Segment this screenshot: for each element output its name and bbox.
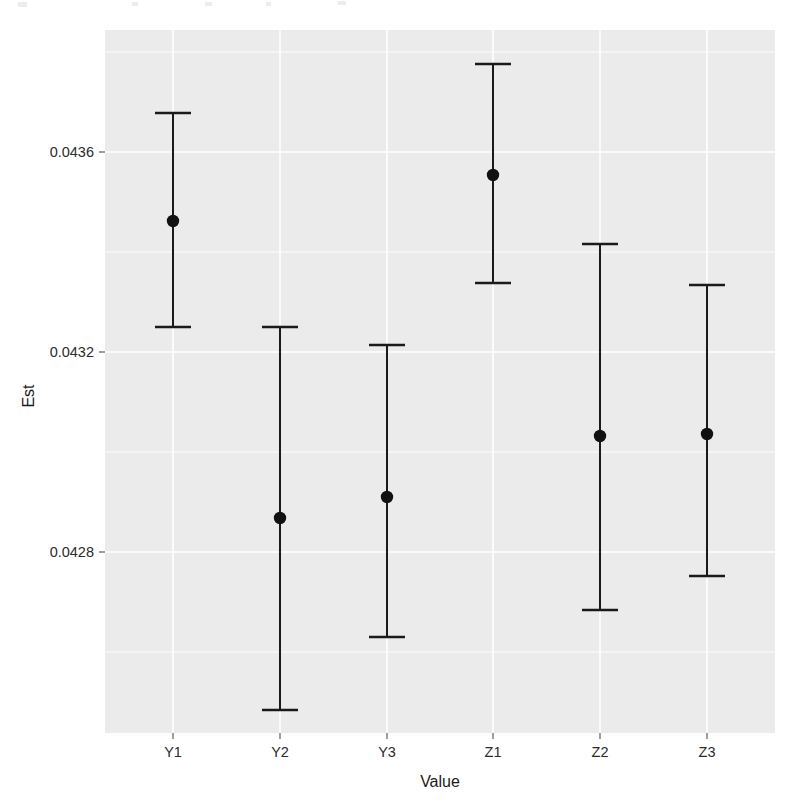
x-axis-ticks	[173, 733, 707, 739]
y-axis-title: Est	[20, 384, 37, 408]
x-tick-label-Y3: Y3	[378, 744, 396, 760]
y-tick-label-1: 0.0432	[50, 344, 94, 360]
data-point-Z1	[487, 169, 499, 181]
data-point-Z3	[701, 428, 713, 440]
y-tick-label-2: 0.0428	[50, 544, 94, 560]
plot-panel-background	[105, 30, 775, 733]
chart-figure: 0.0436 0.0432 0.0428 Y1 Y2 Y3 Z1 Z2 Z3 V…	[0, 0, 803, 804]
x-tick-label-Y1: Y1	[164, 744, 182, 760]
data-point-Z2	[594, 430, 606, 442]
y-tick-label-0: 0.0436	[50, 144, 94, 160]
errorbar-plot-svg: 0.0436 0.0432 0.0428 Y1 Y2 Y3 Z1 Z2 Z3 V…	[0, 0, 803, 804]
x-tick-label-Z2: Z2	[592, 744, 609, 760]
data-point-Y2	[274, 512, 286, 524]
page-scan-artifact	[18, 1, 346, 7]
x-tick-label-Z1: Z1	[485, 744, 502, 760]
data-point-Y3	[381, 491, 393, 503]
y-axis-ticks	[99, 152, 105, 552]
x-tick-label-Y2: Y2	[271, 744, 289, 760]
x-axis-title: Value	[420, 773, 460, 790]
data-point-Y1	[167, 215, 179, 227]
x-tick-label-Z3: Z3	[699, 744, 716, 760]
